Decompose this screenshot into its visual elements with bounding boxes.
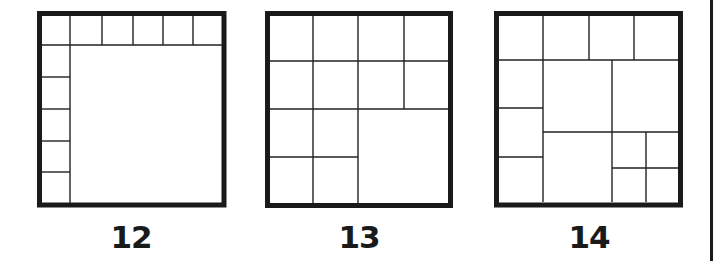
- figure-label-13: 13: [299, 219, 419, 255]
- figure-14: [497, 14, 681, 206]
- figure-label-14: 14: [529, 219, 649, 255]
- figure-13: [268, 14, 451, 206]
- figure-12: [40, 14, 225, 206]
- figure-label-12: 12: [71, 219, 191, 255]
